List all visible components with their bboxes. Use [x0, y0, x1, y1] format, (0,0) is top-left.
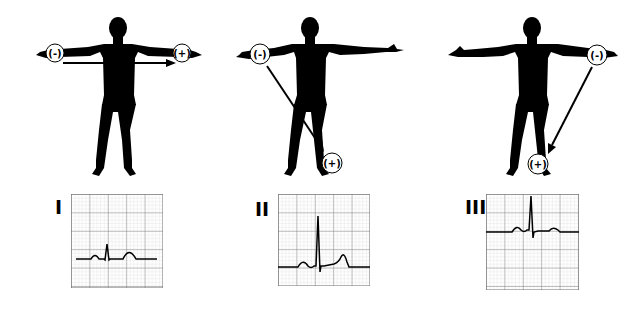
- lead-label: II: [255, 200, 269, 219]
- arrow-head-icon: [166, 59, 176, 67]
- ecg-strip-lead-i: [71, 194, 163, 288]
- positive-electrode-label: (+): [529, 159, 547, 170]
- lead-label: I: [55, 198, 62, 217]
- negative-electrode-label: (-): [253, 49, 266, 60]
- lead-i-panel: (-) (+) I: [0, 0, 214, 310]
- lead-label: III: [465, 198, 486, 217]
- body-silhouette-lead-iii: (-) (+): [428, 0, 643, 190]
- body-silhouette-lead-ii: (-) (+): [214, 0, 428, 190]
- body-silhouette-lead-i: (-) (+): [0, 0, 214, 190]
- ecg-strip-lead-ii: [278, 194, 370, 286]
- negative-electrode-label: (-): [48, 48, 61, 59]
- lead-ii-panel: (-) (+) II: [214, 0, 428, 310]
- ecg-strip-lead-iii: [486, 194, 579, 290]
- positive-electrode-label: (+): [173, 48, 191, 59]
- negative-electrode-label: (-): [590, 50, 603, 61]
- lead-iii-panel: (-) (+) III: [428, 0, 643, 310]
- positive-electrode-label: (+): [323, 158, 341, 169]
